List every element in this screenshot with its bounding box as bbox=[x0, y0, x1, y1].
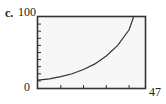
plot-area bbox=[0, 0, 166, 104]
